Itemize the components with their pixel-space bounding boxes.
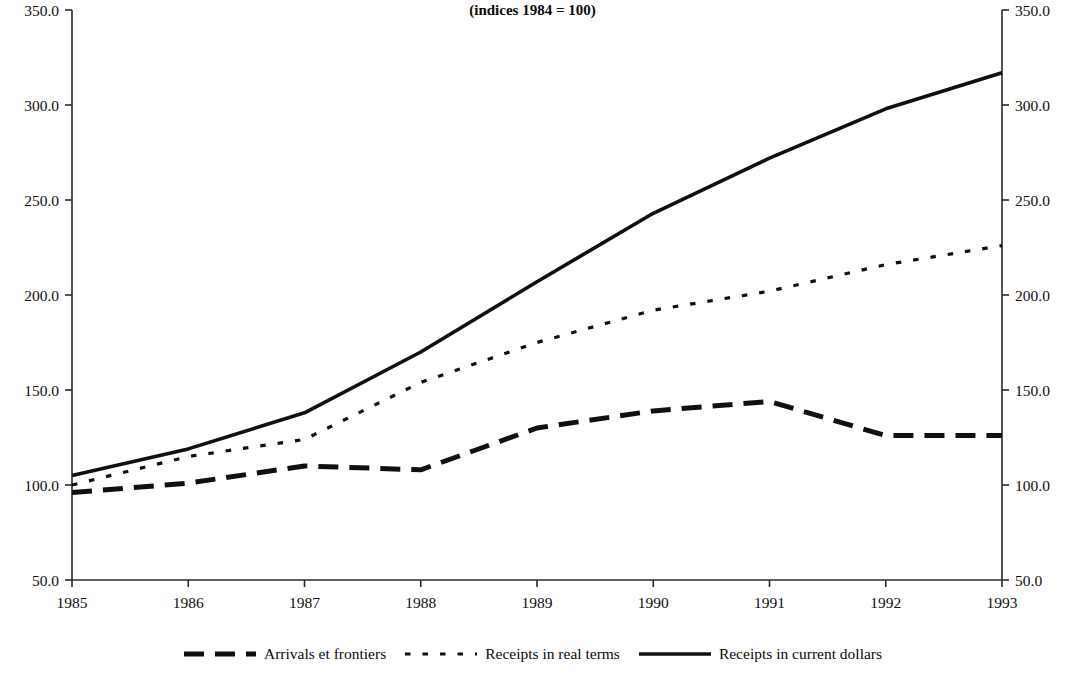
data-series-group bbox=[72, 73, 1002, 493]
y-axis-left-tick-label: 200.0 bbox=[24, 287, 59, 304]
legend-item[interactable]: Receipts in current dollars bbox=[638, 645, 882, 663]
y-axis-left-tick-label: 100.0 bbox=[24, 477, 59, 494]
y-axis-right-tick-label: 250.0 bbox=[1015, 192, 1050, 209]
legend-item-label: Receipts in current dollars bbox=[719, 645, 882, 663]
y-axis-right-tick-label: 300.0 bbox=[1015, 97, 1050, 114]
legend-item[interactable]: Arrivals et frontiers bbox=[183, 645, 386, 663]
legend-item-label: Receipts in real terms bbox=[485, 645, 620, 663]
y-axis-right: 50.0100.0150.0200.0250.0300.0350.0 bbox=[1002, 2, 1050, 589]
legend-swatch-dotted bbox=[404, 648, 478, 660]
x-axis: 198519861987198819891990199119921993 bbox=[57, 580, 1018, 611]
legend-swatch-solid bbox=[638, 648, 712, 660]
y-axis-left: 50.0100.0150.0200.0250.0300.0350.0 bbox=[24, 2, 72, 589]
data-series-line bbox=[72, 73, 1002, 476]
y-axis-left-tick-label: 150.0 bbox=[24, 382, 59, 399]
y-axis-right-tick-label: 350.0 bbox=[1015, 2, 1050, 19]
x-axis-tick-label: 1993 bbox=[987, 594, 1018, 611]
legend-swatch-dashed bbox=[183, 648, 257, 660]
chart-figure: in North America (indices 1984 = 100) 50… bbox=[0, 0, 1065, 679]
y-axis-right-tick-label: 200.0 bbox=[1015, 287, 1050, 304]
x-axis-tick-label: 1986 bbox=[173, 594, 204, 611]
legend-item-label: Arrivals et frontiers bbox=[264, 645, 386, 663]
x-axis-tick-label: 1991 bbox=[754, 594, 785, 611]
legend-item[interactable]: Receipts in real terms bbox=[404, 645, 620, 663]
y-axis-left-tick-label: 250.0 bbox=[24, 192, 59, 209]
y-axis-right-tick-label: 50.0 bbox=[1015, 572, 1042, 589]
chart-legend: Arrivals et frontiersReceipts in real te… bbox=[0, 645, 1065, 663]
data-series-line bbox=[72, 401, 1002, 492]
y-axis-left-tick-label: 300.0 bbox=[24, 97, 59, 114]
y-axis-left-tick-label: 50.0 bbox=[32, 572, 59, 589]
y-axis-right-tick-label: 150.0 bbox=[1015, 382, 1050, 399]
x-axis-tick-label: 1989 bbox=[522, 594, 553, 611]
x-axis-tick-label: 1985 bbox=[57, 594, 88, 611]
x-axis-tick-label: 1992 bbox=[870, 594, 901, 611]
y-axis-right-tick-label: 100.0 bbox=[1015, 477, 1050, 494]
chart-plot-area: 50.0100.0150.0200.0250.0300.0350.0 50.01… bbox=[0, 0, 1065, 645]
x-axis-tick-label: 1987 bbox=[289, 594, 320, 611]
y-axis-left-tick-label: 350.0 bbox=[24, 2, 59, 19]
x-axis-tick-label: 1988 bbox=[405, 594, 436, 611]
x-axis-tick-label: 1990 bbox=[638, 594, 669, 611]
